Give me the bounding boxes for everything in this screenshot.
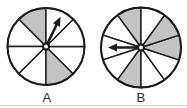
spinner-a-label: A <box>42 90 51 105</box>
spinners-figure: A B <box>0 0 187 108</box>
spinner-a-graphic <box>8 8 85 85</box>
figure-bottom-border <box>0 105 187 106</box>
spinner-b-hub <box>138 44 144 50</box>
spinner-a-hub <box>43 43 49 49</box>
spinners-canvas <box>0 0 187 108</box>
spinner-b-label: B <box>136 90 145 105</box>
spinner-b-graphic <box>101 8 181 88</box>
